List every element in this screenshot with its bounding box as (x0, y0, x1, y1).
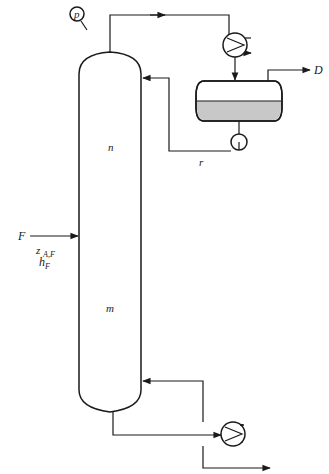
distillate-label: D (313, 63, 323, 77)
pressure-gauge-icon: p (70, 7, 87, 30)
rectifying-section-label: n (108, 141, 114, 153)
overhead-vapor-line (110, 15, 229, 53)
reflux-drum (196, 81, 282, 121)
condenser-icon (223, 33, 251, 80)
bottoms-line (113, 411, 221, 435)
feed-label: F (17, 229, 26, 243)
column (79, 52, 141, 412)
reflux-label: r (199, 156, 204, 168)
reflux-pump-icon (231, 121, 247, 150)
feed-line: F z A,F h F (17, 229, 78, 271)
distillation-diagram: p D r n m F z A,F (0, 0, 329, 474)
distillate-line: D (268, 63, 323, 81)
vapor-return-line (143, 381, 203, 422)
pressure-label: p (73, 8, 80, 20)
stripping-section-label: m (106, 302, 114, 314)
feed-enthalpy-subscript: F (44, 262, 50, 271)
bottoms-product-line (203, 446, 270, 468)
